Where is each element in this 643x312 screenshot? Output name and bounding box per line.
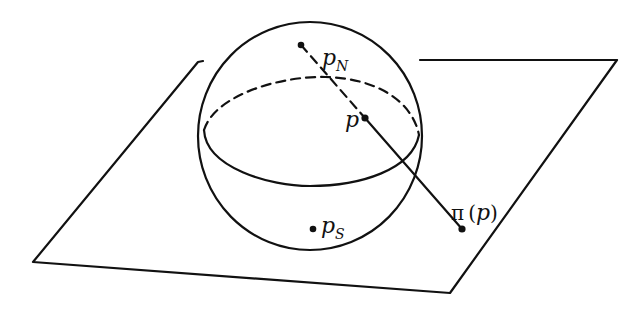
- north-pole-label-subscript: N: [335, 58, 349, 74]
- south-pole-label: pS: [321, 213, 345, 242]
- north-pole-label: pN: [322, 45, 349, 74]
- south-pole-point: [310, 226, 317, 233]
- equator-back-dashed: [204, 77, 419, 135]
- projection-label-close-paren: ): [490, 201, 498, 225]
- projection-label-open-paren: (: [468, 201, 476, 225]
- stereographic-projection-diagram: pN p π(p) pS: [0, 0, 643, 312]
- point-p: [361, 114, 368, 121]
- projection-label-pi: π: [451, 201, 464, 225]
- equator-front: [204, 130, 419, 186]
- projection-label: π(p): [451, 200, 498, 225]
- projected-point: [458, 225, 465, 232]
- point-p-label: p: [345, 107, 359, 132]
- projection-label-arg: p: [476, 200, 490, 225]
- plane-edge-top-left: [33, 60, 617, 293]
- south-pole-label-base: p: [321, 213, 335, 238]
- north-pole-point: [298, 42, 305, 49]
- south-pole-label-subscript: S: [335, 226, 345, 242]
- north-pole-label-base: p: [322, 45, 336, 70]
